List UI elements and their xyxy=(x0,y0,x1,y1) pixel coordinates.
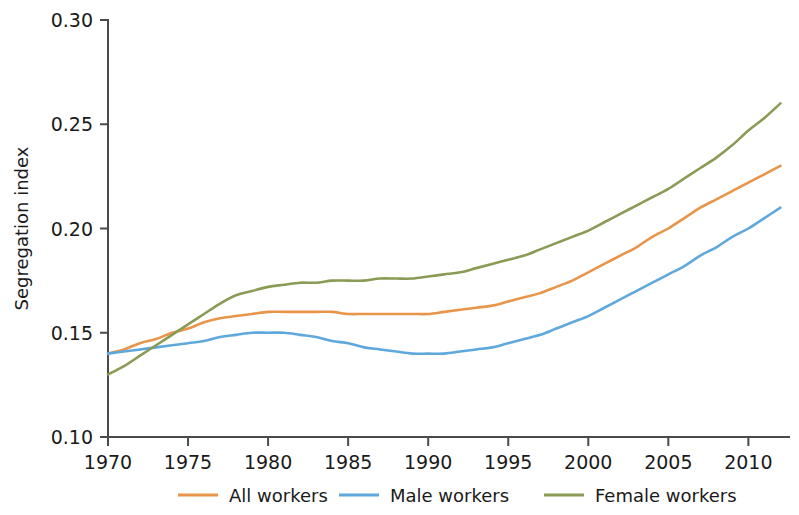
series-line-male-workers xyxy=(108,208,780,354)
y-tick-label: 0.10 xyxy=(51,426,93,448)
y-axis-title: Segregation index xyxy=(11,146,32,310)
x-tick-label: 1970 xyxy=(84,451,132,473)
chart-canvas: 0.100.150.200.250.30 1970197519801985199… xyxy=(0,0,799,515)
x-axis-group: 197019751980198519901995200020052010 xyxy=(84,437,790,473)
y-tick-label: 0.25 xyxy=(51,113,93,135)
legend-item-male-workers[interactable]: Male workers xyxy=(339,485,509,506)
y-tick-label: 0.15 xyxy=(51,322,93,344)
x-axis-tick-labels: 197019751980198519901995200020052010 xyxy=(84,451,773,473)
x-tick-label: 1995 xyxy=(484,451,532,473)
legend-item-female-workers[interactable]: Female workers xyxy=(544,485,737,506)
segregation-index-line-chart: 0.100.150.200.250.30 1970197519801985199… xyxy=(0,0,799,515)
x-tick-label: 1985 xyxy=(324,451,372,473)
x-tick-label: 1975 xyxy=(164,451,212,473)
legend-label: Male workers xyxy=(390,485,509,506)
x-tick-label: 2005 xyxy=(644,451,692,473)
series-line-female-workers xyxy=(108,103,780,374)
y-axis-tick-labels: 0.100.150.200.250.30 xyxy=(51,9,93,448)
series-lines-group xyxy=(108,103,780,374)
legend-label: Female workers xyxy=(595,485,737,506)
x-tick-label: 2010 xyxy=(724,451,772,473)
x-tick-label: 1980 xyxy=(244,451,292,473)
y-axis-group: 0.100.150.200.250.30 xyxy=(51,9,108,448)
series-line-all-workers xyxy=(108,166,780,354)
legend-label: All workers xyxy=(229,485,328,506)
x-axis-ticks xyxy=(108,437,748,446)
x-tick-label: 2000 xyxy=(564,451,612,473)
chart-legend: All workersMale workersFemale workers xyxy=(178,485,737,506)
legend-item-all-workers[interactable]: All workers xyxy=(178,485,328,506)
x-tick-label: 1990 xyxy=(404,451,452,473)
y-tick-label: 0.30 xyxy=(51,9,93,31)
y-tick-label: 0.20 xyxy=(51,218,93,240)
